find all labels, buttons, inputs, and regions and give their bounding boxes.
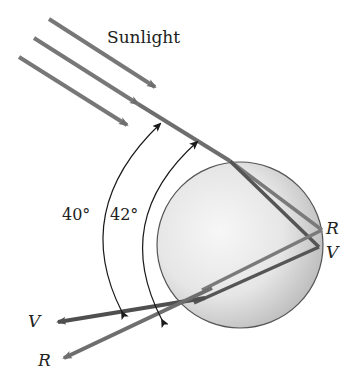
angle-40-label: 40° [62,205,90,224]
sunlight-label: Sunlight [107,27,180,47]
exit-red-ray [64,288,212,358]
sunlight-ray-2 [34,38,138,104]
diagram-canvas: Sunlight 40° 42° R V V R [0,0,351,386]
exit-violet-label: V [28,311,42,331]
exit-red-label: R [37,350,51,370]
exit-rays [58,288,212,358]
internal-red-label: R [325,218,339,238]
internal-violet-label: V [326,242,340,262]
angle-42-label: 42° [110,205,138,224]
rainbow-diagram: Sunlight 40° 42° R V V R [0,0,351,386]
sunlight-ray-3 [19,57,127,125]
